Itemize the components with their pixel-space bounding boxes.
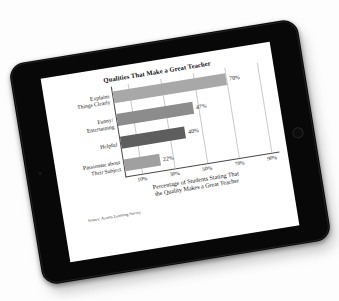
bar-value-label: 40% bbox=[188, 127, 199, 135]
bar-chart: Qualities That Make a Great Teacher Expl… bbox=[41, 42, 300, 263]
x-tick-label: 10% bbox=[137, 175, 148, 183]
scene: Qualities That Make a Great Teacher Expl… bbox=[0, 0, 339, 301]
bar bbox=[120, 126, 186, 148]
x-tick-label: 70% bbox=[234, 159, 245, 167]
category-label: Explains Things Clearly bbox=[52, 93, 110, 115]
tablet-screen[interactable]: Qualities That Make a Great Teacher Expl… bbox=[41, 42, 300, 263]
home-button[interactable] bbox=[292, 126, 305, 139]
x-tick-label: 30% bbox=[169, 170, 180, 178]
category-label: Funny/ Entertaining bbox=[56, 117, 114, 139]
bar bbox=[124, 153, 161, 171]
bar bbox=[116, 102, 194, 126]
bar-value-label: 47% bbox=[195, 103, 206, 111]
tablet-device: Qualities That Make a Great Teacher Expl… bbox=[8, 18, 332, 286]
category-label: Passionate about Their Subject bbox=[63, 159, 121, 181]
front-camera-icon bbox=[39, 172, 42, 175]
bar-value-label: 70% bbox=[229, 74, 240, 82]
x-tick-label: 90% bbox=[267, 154, 278, 162]
category-label: Helpful bbox=[60, 141, 117, 157]
x-tick-label: 50% bbox=[202, 165, 213, 173]
bar-value-label: 22% bbox=[162, 154, 173, 162]
